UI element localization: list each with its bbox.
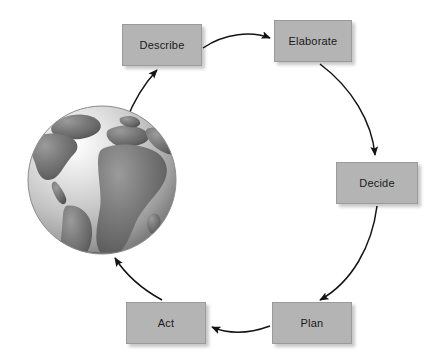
node-describe[interactable]: Describe [122,24,202,66]
arrow-act-to-globe [115,258,162,300]
node-plan-label: Plan [301,317,324,329]
globe-earth-graphic [28,106,179,263]
node-act[interactable]: Act [126,302,206,344]
node-decide[interactable]: Decide [336,162,418,204]
arrow-describe-to-elaborate [203,34,270,48]
node-elaborate-label: Elaborate [289,35,338,47]
node-act-label: Act [158,317,175,329]
node-elaborate[interactable]: Elaborate [274,20,352,62]
arrow-elaborate-to-decide [320,64,375,155]
node-decide-label: Decide [359,177,394,189]
arrow-plan-to-act [212,326,270,332]
node-plan[interactable]: Plan [272,302,352,344]
node-describe-label: Describe [139,39,184,51]
arrow-decide-to-plan [320,206,377,300]
